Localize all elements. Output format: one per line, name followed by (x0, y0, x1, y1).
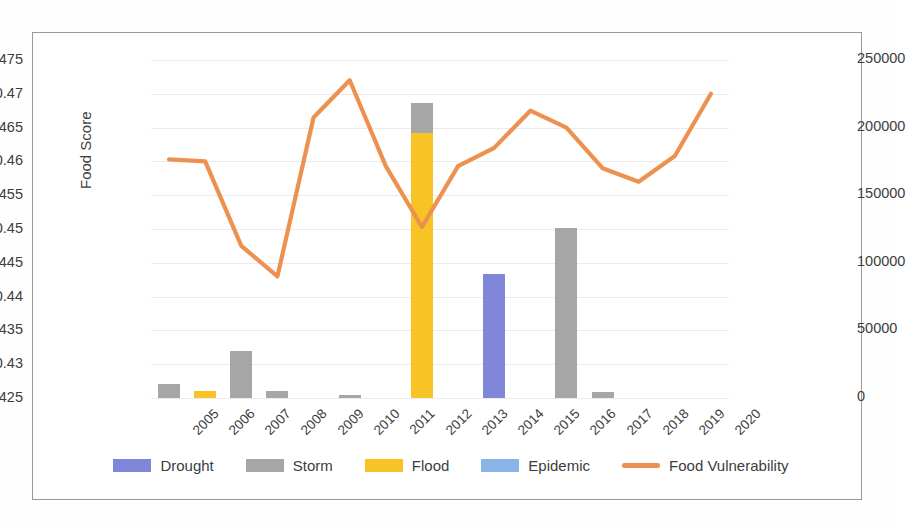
chart-frame: Food Score 0.4750.470.4650.460.4550.450.… (32, 32, 862, 500)
x-tick: 2007 (262, 406, 294, 438)
x-tick: 2016 (587, 406, 619, 438)
legend-item-food-vulnerability[interactable]: Food Vulnerability (622, 457, 789, 474)
bars-layer (151, 60, 729, 398)
x-tick: 2011 (406, 406, 437, 437)
legend-swatch-icon (622, 463, 660, 468)
bar-storm-2016 (555, 228, 577, 398)
legend-label: Flood (412, 457, 450, 474)
gridline (151, 398, 729, 399)
x-tick: 2008 (298, 406, 330, 438)
y-tick-right: 100000 (857, 254, 910, 269)
y-tick-right: 150000 (857, 186, 910, 201)
bar-storm-2007 (230, 351, 252, 398)
y-axis-title: Food Score (77, 111, 94, 189)
x-tick: 2005 (190, 406, 222, 438)
x-tick: 2019 (696, 406, 728, 438)
y-tick-left: 0.43 (0, 356, 23, 371)
y-tick-right: 200000 (857, 119, 910, 134)
x-tick: 2012 (443, 406, 475, 438)
bar-drought-2014 (483, 274, 505, 398)
x-tick: 2013 (479, 406, 511, 438)
legend-item-epidemic[interactable]: Epidemic (481, 457, 590, 474)
bar-storm-2005 (158, 384, 180, 398)
x-tick: 2009 (334, 406, 366, 438)
y-tick-right: 0 (857, 389, 910, 404)
plot-area: 0.4750.470.4650.460.4550.450.4450.440.43… (151, 60, 729, 398)
y-tick-left: 0.425 (0, 390, 23, 405)
legend-label: Drought (160, 457, 213, 474)
legend-item-storm[interactable]: Storm (246, 457, 333, 474)
legend-label: Food Vulnerability (669, 457, 789, 474)
x-tick: 2015 (551, 406, 583, 438)
legend-item-flood[interactable]: Flood (365, 457, 450, 474)
y-tick-left: 0.45 (0, 221, 23, 236)
y-tick-left: 0.46 (0, 153, 23, 168)
legend-label: Epidemic (528, 457, 590, 474)
y-tick-left: 0.44 (0, 289, 23, 304)
x-tick: 2017 (623, 406, 655, 438)
x-tick: 2018 (659, 406, 691, 438)
x-tick: 2010 (370, 406, 402, 438)
y-tick-right: 50000 (857, 321, 910, 336)
x-tick: 2020 (732, 406, 764, 438)
legend-swatch-icon (481, 459, 519, 472)
x-tick: 2014 (515, 406, 547, 438)
y-tick-left: 0.475 (0, 52, 23, 67)
y-axis-title-wrap: Food Score (85, 93, 107, 333)
legend-swatch-icon (113, 459, 151, 472)
y-tick-left: 0.455 (0, 187, 23, 202)
legend-swatch-icon (246, 459, 284, 472)
legend-swatch-icon (365, 459, 403, 472)
y-tick-left: 0.465 (0, 120, 23, 135)
y-tick-left: 0.47 (0, 86, 23, 101)
y-tick-right: 250000 (857, 51, 910, 66)
bar-flood-2006 (194, 391, 216, 398)
y-tick-left: 0.435 (0, 322, 23, 337)
bar-flood-2012 (411, 133, 433, 398)
legend-label: Storm (293, 457, 333, 474)
bar-storm-2017 (592, 392, 614, 398)
legend-item-drought[interactable]: Drought (113, 457, 213, 474)
y-tick-left: 0.445 (0, 255, 23, 270)
bar-storm-2010 (339, 395, 361, 398)
bar-storm-2008 (266, 391, 288, 398)
chart-legend: DroughtStormFloodEpidemicFood Vulnerabil… (93, 448, 809, 482)
x-tick: 2006 (226, 406, 258, 438)
